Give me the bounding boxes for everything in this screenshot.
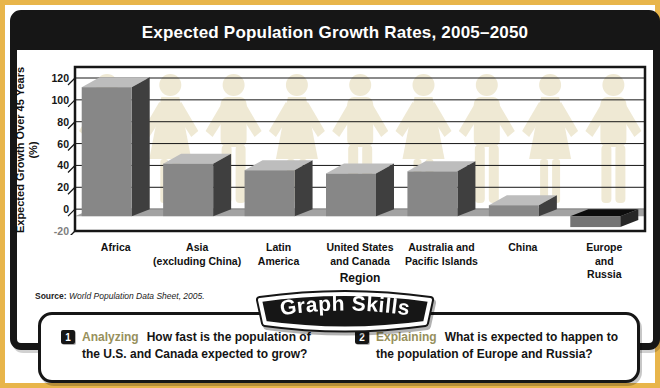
graph-skills-badge: Graph Skills: [250, 287, 440, 333]
figure-frame: Expected Population Growth Rates, 2005–2…: [0, 0, 660, 388]
x-axis-category-label: China: [508, 241, 537, 255]
x-axis-category-label: Asia (excluding China): [153, 241, 241, 268]
chart-title-bar: Expected Population Growth Rates, 2005–2…: [17, 17, 653, 50]
bar-front-face: [326, 174, 376, 217]
question-2-text-block: ExplainingWhat is expected to happen to …: [376, 329, 631, 363]
question-2: 2 ExplainingWhat is expected to happen t…: [355, 329, 631, 363]
population-bar-chart-canvas: [65, 65, 649, 235]
bar-side-face: [132, 77, 150, 216]
source-label: Source:: [35, 291, 67, 301]
chart-title: Expected Population Growth Rates, 2005–2…: [142, 23, 529, 42]
y-axis-title: Expected Growth Over 45 Years (%): [14, 35, 39, 265]
negative-bar-front-face: [570, 216, 620, 227]
question-1-text-block: AnalyzingHow fast is the population of t…: [82, 329, 329, 363]
x-axis-title: Region: [340, 271, 381, 285]
source-citation: Source: World Population Data Sheet, 200…: [35, 291, 205, 301]
bar-side-face: [213, 154, 231, 216]
bar-front-face: [163, 164, 213, 216]
bar-front-face: [245, 170, 295, 216]
question-1: 1 AnalyzingHow fast is the population of…: [61, 329, 329, 363]
question-1-skill-label: Analyzing: [82, 330, 139, 344]
bar-front-face: [407, 171, 457, 216]
x-axis-category-label: Latin America: [258, 241, 299, 268]
bar-front-face: [82, 87, 132, 216]
x-axis-category-label: Australia and Pacific Islands: [405, 241, 478, 268]
source-text: World Population Data Sheet, 2005.: [67, 291, 205, 301]
x-axis-category-label: Europe and Russia: [580, 241, 629, 282]
bar-front-face: [489, 205, 539, 216]
y-axis-title-text: Expected Growth Over 45 Years: [14, 35, 27, 265]
y-axis-unit: (%): [27, 35, 40, 265]
x-axis-category-label: Africa: [101, 241, 131, 255]
x-axis-category-label: United States and Canada: [326, 241, 393, 268]
question-1-number-badge: 1: [61, 330, 75, 344]
